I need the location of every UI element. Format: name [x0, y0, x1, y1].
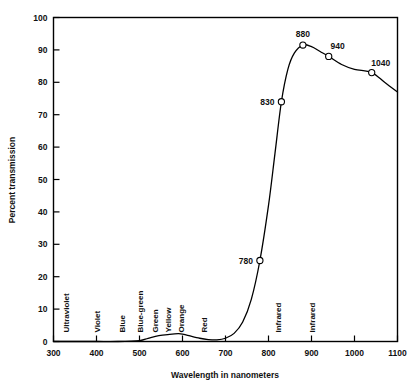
data-point-marker	[278, 99, 284, 105]
y-tick-label: 10	[38, 304, 48, 314]
y-tick-label: 100	[33, 13, 47, 23]
x-tick-label: 800	[261, 348, 275, 358]
y-tick-label: 0	[43, 337, 48, 347]
data-point-marker	[326, 53, 332, 59]
data-point-label: 880	[296, 29, 310, 39]
band-label: Blue	[118, 315, 127, 333]
x-tick-label: 700	[218, 348, 232, 358]
band-label: Green	[151, 309, 160, 332]
x-axis-tick-labels: 30040050060070080090010001100	[46, 348, 407, 358]
band-label: Yellow	[164, 307, 173, 333]
transmission-chart: 0102030405060708090100 30040050060070080…	[0, 0, 416, 389]
x-axis-title: Wavelength in nanometers	[171, 370, 279, 380]
data-point-marker	[300, 42, 306, 48]
band-label: Orange	[177, 304, 186, 333]
data-point-marker	[257, 257, 263, 263]
y-axis-title: Percent transmission	[7, 137, 17, 223]
data-point-label: 1040	[371, 58, 390, 68]
y-tick-label: 80	[38, 77, 48, 87]
band-label: Infrared	[308, 303, 317, 333]
y-tick-label: 70	[38, 110, 48, 120]
y-tick-label: 40	[38, 207, 48, 217]
band-label: Blue-green	[136, 291, 145, 333]
y-tick-label: 50	[38, 175, 48, 185]
y-tick-label: 60	[38, 142, 48, 152]
y-axis-tick-labels: 0102030405060708090100	[33, 13, 47, 347]
x-tick-label: 1100	[388, 348, 407, 358]
chart-container: 0102030405060708090100 30040050060070080…	[0, 0, 416, 389]
x-tick-label: 400	[89, 348, 103, 358]
x-tick-label: 900	[304, 348, 318, 358]
data-point-label: 780	[239, 256, 253, 266]
y-tick-label: 90	[38, 45, 48, 55]
data-point-label: 830	[260, 97, 274, 107]
data-point-marker	[369, 69, 375, 75]
x-tick-label: 600	[175, 348, 189, 358]
band-label: Red	[200, 317, 209, 332]
y-tick-label: 30	[38, 239, 48, 249]
band-label: Infrared	[274, 303, 283, 333]
band-label: Violet	[93, 311, 102, 333]
x-tick-label: 1000	[345, 348, 364, 358]
data-point-label: 940	[331, 41, 345, 51]
y-tick-label: 20	[38, 272, 48, 282]
band-label: Ultraviolet	[62, 293, 71, 332]
x-tick-label: 300	[46, 348, 60, 358]
x-tick-label: 500	[132, 348, 146, 358]
